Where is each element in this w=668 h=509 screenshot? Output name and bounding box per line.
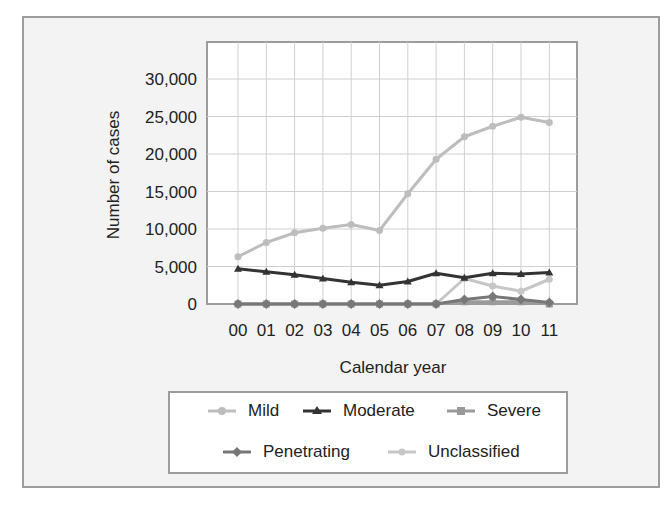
legend-label: Penetrating [263, 442, 350, 462]
legend: Mild Moderate Severe Penetrating Unclass… [168, 391, 568, 474]
x-tick-label: 02 [285, 321, 304, 340]
x-tick-label: 08 [455, 321, 474, 340]
y-tick-label: 10,000 [145, 220, 197, 239]
y-tick-label: 30,000 [145, 70, 197, 89]
legend-label: Severe [487, 401, 541, 421]
circle-marker-icon [208, 406, 236, 416]
x-tick-label: 05 [370, 321, 389, 340]
x-tick-label: 04 [342, 321, 361, 340]
legend-label: Moderate [343, 401, 415, 421]
y-tick-label: 0 [188, 295, 197, 314]
y-tick-label: 5,000 [154, 258, 197, 277]
x-axis-label: Calendar year [340, 358, 447, 377]
diamond-marker-icon [223, 447, 251, 457]
legend-item-moderate[interactable]: Moderate [303, 401, 415, 421]
y-tick-label: 15,000 [145, 183, 197, 202]
legend-label: Mild [248, 401, 279, 421]
y-axis-ticks: 05,00010,00015,00020,00025,00030,000 [145, 70, 197, 314]
triangle-marker-icon [303, 406, 331, 416]
legend-item-unclassified[interactable]: Unclassified [388, 442, 520, 462]
star-marker-icon [388, 447, 416, 457]
x-tick-label: 06 [398, 321, 417, 340]
square-marker-icon [447, 406, 475, 416]
x-tick-label: 11 [540, 321, 558, 340]
x-tick-label: 09 [483, 321, 502, 340]
y-tick-label: 20,000 [145, 145, 197, 164]
x-tick-label: 00 [229, 321, 248, 340]
x-tick-label: 10 [512, 321, 531, 340]
legend-item-severe[interactable]: Severe [447, 401, 541, 421]
x-axis-ticks: 000102030405060708091011 [229, 321, 559, 340]
y-axis-label: Number of cases [104, 111, 123, 240]
legend-item-mild[interactable]: Mild [208, 401, 279, 421]
x-tick-label: 01 [257, 321, 276, 340]
y-tick-label: 25,000 [145, 108, 197, 127]
legend-item-penetrating[interactable]: Penetrating [223, 442, 350, 462]
x-tick-label: 07 [427, 321, 446, 340]
x-tick-label: 03 [313, 321, 332, 340]
legend-label: Unclassified [428, 442, 520, 462]
